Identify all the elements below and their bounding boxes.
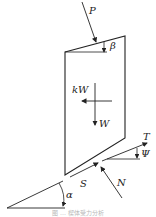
- inclined-plane: [7, 181, 63, 208]
- force-kw-label: kW: [72, 84, 89, 95]
- psi-label: Ψ: [141, 148, 151, 159]
- alpha-arc: [59, 183, 64, 206]
- alpha-label: α: [66, 189, 73, 200]
- wedge-force-diagram: β P kW W α S T Ψ N 图 … 楔体受力分析: [0, 0, 156, 217]
- force-p-label: P: [88, 5, 96, 16]
- force-w-label: W: [99, 118, 110, 129]
- force-n-label: N: [116, 177, 127, 188]
- figure-caption: 图 … 楔体受力分析: [52, 209, 104, 217]
- force-t-label: T: [143, 131, 151, 142]
- beta-label: β: [109, 40, 116, 51]
- force-s-arrow: [70, 163, 98, 177]
- force-s-label: S: [80, 178, 87, 189]
